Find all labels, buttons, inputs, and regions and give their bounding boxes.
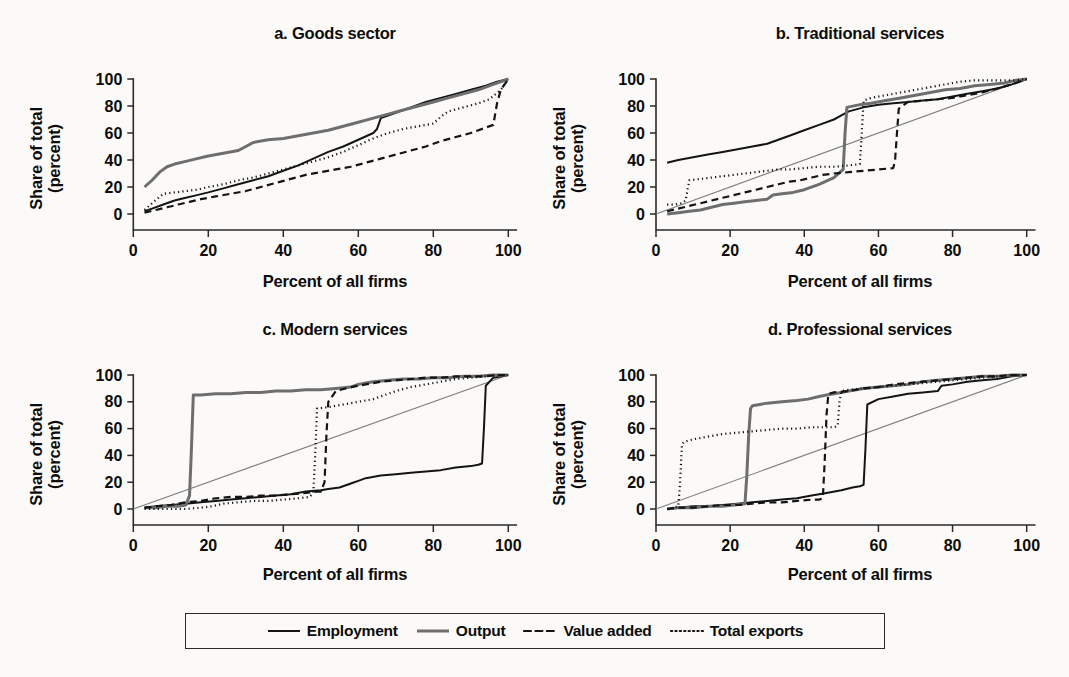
y-axis-title-line: (percent) [568,369,586,539]
legend-label: Output [456,622,506,640]
figure-four-panel-lorenz-curves: a. Goods sectorPercent of all firmsShare… [0,0,1069,677]
x-tick-label: 80 [944,537,962,554]
series-line-total-exports [667,375,1027,509]
series-line-employment [667,375,1027,509]
legend-swatch-dotted-line-icon [670,625,704,637]
x-axis-title: Percent of all firms [620,565,1069,584]
y-tick-label: 80 [627,393,645,410]
axis-lines [656,375,1035,525]
y-axis-title: Share of total(percent) [550,369,587,539]
x-tick-label: 0 [652,537,661,554]
x-tick-label: 60 [870,537,888,554]
legend-label: Employment [307,622,398,640]
y-tick-label: 60 [627,420,645,437]
y-axis-title-line: Share of total [550,369,568,539]
y-tick-label: 100 [618,367,645,384]
legend-swatch-solid-line-icon [416,625,450,637]
equality-diagonal-line [656,375,1027,509]
legend-item-employment[interactable]: Employment [267,622,398,640]
x-tick-label: 100 [1013,537,1040,554]
legend-item-value-added[interactable]: Value added [523,622,651,640]
y-tick-label: 40 [627,447,645,464]
panel-title: d. Professional services [620,320,1069,339]
series-line-output [667,375,1027,509]
legend-swatch-dashed-line-icon [523,625,557,637]
chart-panel-4: d. Professional servicesPercent of all f… [0,0,1069,677]
legend-item-total-exports[interactable]: Total exports [670,622,804,640]
series-line-value-added [667,375,1027,509]
x-tick-label: 20 [721,537,739,554]
legend-item-output[interactable]: Output [416,622,506,640]
x-tick-label: 40 [795,537,813,554]
legend-swatch-solid-line-icon [267,625,301,637]
legend-label: Value added [563,622,651,640]
chart-legend: EmploymentOutputValue addedTotal exports [185,613,885,649]
legend-label: Total exports [710,622,804,640]
y-tick-label: 20 [627,474,645,491]
y-tick-label: 0 [636,501,645,518]
